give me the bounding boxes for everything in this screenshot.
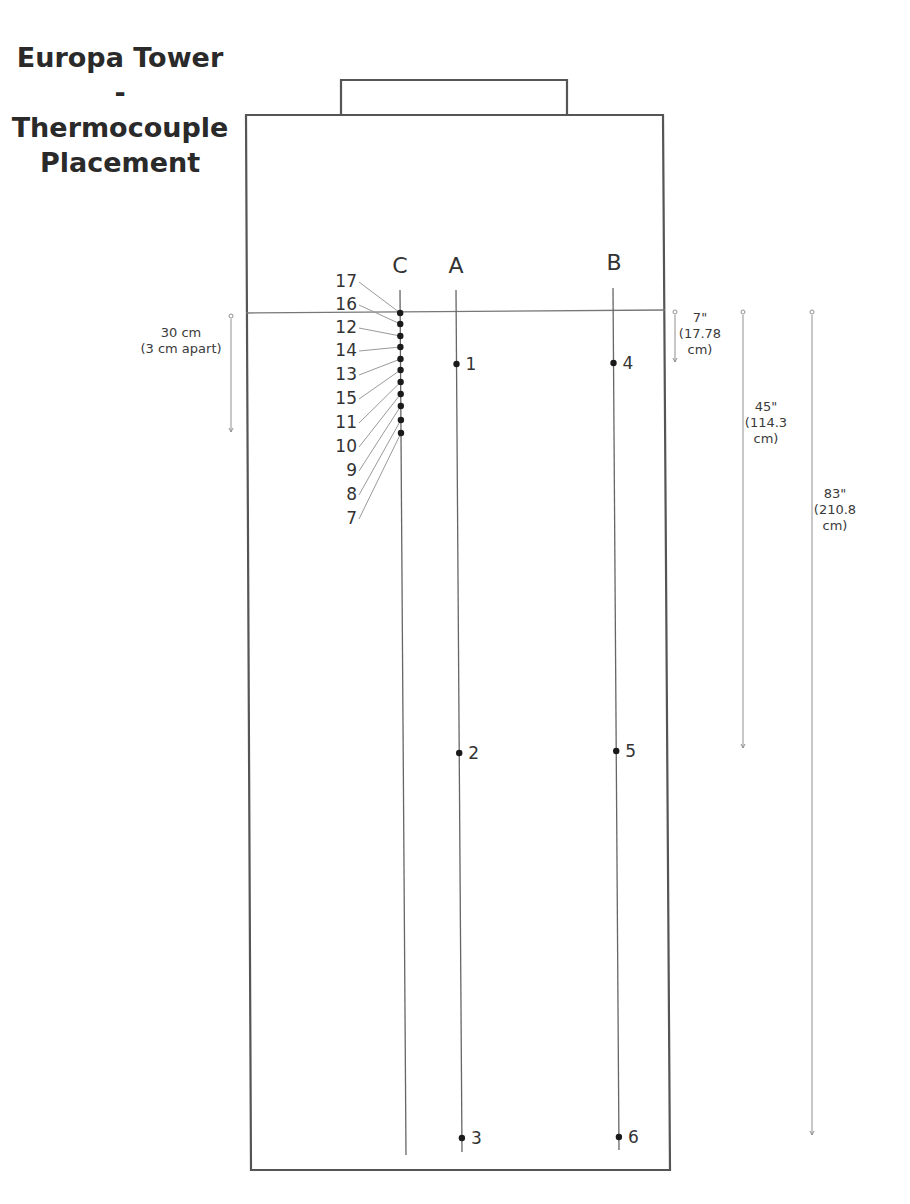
thermocouple-label-10: 10 bbox=[335, 436, 357, 456]
thermocouple-dot-10 bbox=[398, 391, 404, 397]
thermocouple-label-14: 14 bbox=[335, 340, 357, 360]
dim-45in-text-1: (114.3 bbox=[745, 415, 787, 430]
thermocouple-dot-17 bbox=[397, 310, 403, 316]
thermocouple-label-9: 9 bbox=[346, 460, 357, 480]
dim-30cm: 30 cm(3 cm apart) bbox=[140, 314, 233, 432]
leader-line-7 bbox=[359, 433, 401, 519]
leader-line-8 bbox=[359, 420, 401, 495]
thermocouple-dot-5 bbox=[613, 748, 619, 754]
thermocouple-label-11: 11 bbox=[335, 412, 357, 432]
leader-line-12 bbox=[359, 328, 400, 336]
thermocouple-dot-15 bbox=[397, 367, 403, 373]
dim-30cm-text-0: 30 cm bbox=[161, 325, 202, 340]
dim-7in-start-marker bbox=[673, 310, 677, 314]
thermocouple-diagram: CAB 1716121413151110987 123456 30 cm(3 c… bbox=[0, 0, 910, 1204]
leader-line-14 bbox=[359, 347, 400, 351]
thermocouple-dot-13 bbox=[397, 356, 403, 362]
dim-30cm-start-marker bbox=[229, 314, 233, 318]
thermocouple-dot-2 bbox=[456, 750, 462, 756]
column-label-c: C bbox=[392, 253, 407, 278]
thermocouple-dot-14 bbox=[397, 344, 403, 350]
thermocouple-label-5: 5 bbox=[625, 741, 636, 761]
thermocouple-label-12: 12 bbox=[335, 317, 357, 337]
thermocouple-label-3: 3 bbox=[471, 1128, 482, 1148]
thermocouple-dot-11 bbox=[397, 379, 403, 385]
dim-83in-text-0: 83" bbox=[824, 486, 847, 501]
thermocouple-dot-7 bbox=[398, 430, 404, 436]
dim-83in: 83"(210.8cm) bbox=[810, 310, 856, 1135]
dim-83in-text-1: (210.8 bbox=[814, 502, 856, 517]
dim-7in-text-0: 7" bbox=[693, 310, 707, 325]
dim-83in-text-2: cm) bbox=[823, 518, 848, 533]
thermocouple-label-2: 2 bbox=[468, 743, 479, 763]
dim-83in-start-marker bbox=[810, 310, 814, 314]
column-c-sensors: 1716121413151110987 bbox=[335, 271, 404, 528]
column-label-a: A bbox=[448, 253, 463, 278]
thermocouple-label-7: 7 bbox=[346, 508, 357, 528]
leader-line-15 bbox=[359, 370, 401, 399]
dim-45in-text-2: cm) bbox=[754, 431, 779, 446]
dim-7in-text-1: (17.78 bbox=[679, 326, 721, 341]
column-ab-sensors: 123456 bbox=[453, 353, 638, 1148]
thermocouple-dot-12 bbox=[397, 333, 403, 339]
thermocouple-label-16: 16 bbox=[335, 294, 357, 314]
dim-45in: 45"(114.3cm) bbox=[741, 310, 787, 748]
column-label-b: B bbox=[606, 250, 621, 275]
thermocouple-dot-3 bbox=[459, 1135, 465, 1141]
probe-line-a bbox=[456, 290, 462, 1152]
thermocouple-label-8: 8 bbox=[346, 484, 357, 504]
thermocouple-label-4: 4 bbox=[623, 353, 634, 373]
thermocouple-dot-8 bbox=[398, 417, 404, 423]
dim-45in-text-0: 45" bbox=[755, 399, 778, 414]
thermocouple-dot-9 bbox=[398, 403, 404, 409]
thermocouple-label-1: 1 bbox=[466, 354, 477, 374]
thermocouple-label-13: 13 bbox=[335, 364, 357, 384]
leader-line-13 bbox=[359, 359, 400, 375]
dim-45in-start-marker bbox=[741, 310, 745, 314]
thermocouple-dot-16 bbox=[397, 321, 403, 327]
thermocouple-label-15: 15 bbox=[335, 388, 357, 408]
thermocouple-dot-4 bbox=[610, 360, 616, 366]
dim-30cm-text-1: (3 cm apart) bbox=[140, 341, 221, 356]
dim-7in: 7"(17.78cm) bbox=[673, 310, 721, 362]
probe-columns: CAB bbox=[392, 250, 621, 1155]
thermocouple-dot-1 bbox=[453, 361, 459, 367]
thermocouple-label-17: 17 bbox=[335, 271, 357, 291]
thermocouple-dot-6 bbox=[616, 1134, 622, 1140]
thermocouple-label-6: 6 bbox=[628, 1127, 639, 1147]
dim-7in-text-2: cm) bbox=[688, 342, 713, 357]
tower-top-cap bbox=[341, 80, 567, 115]
probe-line-b bbox=[613, 288, 619, 1150]
